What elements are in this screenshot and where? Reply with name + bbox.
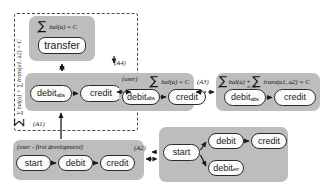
arrow-start-to-debit-error bbox=[201, 142, 207, 150]
arrows-layer bbox=[0, 0, 324, 188]
arrow-start-to-debit-err bbox=[201, 155, 207, 166]
diagram-canvas: ∑a ∑ bal(a) + ∑ trans(a1, a2) = C ∑a bal… bbox=[0, 0, 324, 188]
